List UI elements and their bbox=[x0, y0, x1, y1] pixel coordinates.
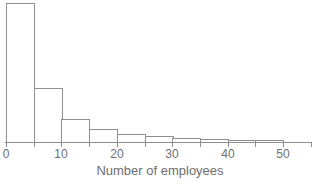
x-axis-tick bbox=[145, 142, 146, 147]
x-axis-tick bbox=[89, 142, 90, 147]
x-axis-tick-label: 50 bbox=[268, 148, 298, 161]
x-axis-tick-label: 10 bbox=[46, 148, 76, 161]
x-axis-tick bbox=[311, 142, 312, 147]
x-axis-tick bbox=[200, 142, 201, 147]
histogram-bar bbox=[200, 139, 229, 143]
histogram-bar bbox=[117, 134, 146, 143]
histogram-bar bbox=[172, 138, 201, 143]
x-axis-tick-label: 40 bbox=[213, 148, 243, 161]
histogram-bar bbox=[89, 129, 118, 143]
histogram-bar bbox=[255, 140, 284, 143]
histogram-bar bbox=[6, 3, 35, 143]
x-axis-tick bbox=[34, 142, 35, 147]
plot-area: 01020304050 bbox=[0, 0, 313, 184]
histogram-bar bbox=[34, 88, 63, 143]
x-axis-tick-label: 20 bbox=[102, 148, 132, 161]
x-axis-tick-label: 0 bbox=[0, 148, 21, 161]
x-axis-tick-label: 30 bbox=[157, 148, 187, 161]
histogram-bar bbox=[145, 136, 174, 143]
x-axis-tick bbox=[255, 142, 256, 147]
x-axis-title: Number of employees bbox=[10, 164, 310, 178]
histogram-chart: 01020304050 Number of employees bbox=[0, 0, 313, 184]
histogram-bar bbox=[228, 140, 257, 143]
histogram-bar bbox=[61, 119, 90, 143]
